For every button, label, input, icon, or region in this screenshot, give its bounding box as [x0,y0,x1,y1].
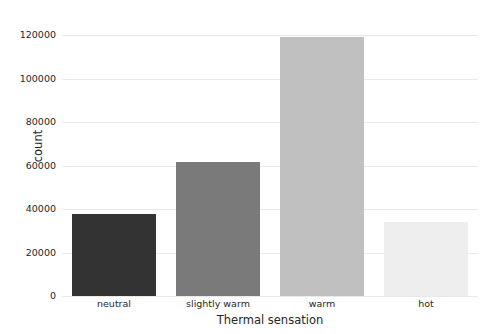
y-axis-tick-label: 120000 [2,30,56,40]
x-axis-tick-labels: neutralslightly warmwarmhot [62,298,478,314]
bar [384,222,468,296]
bar [176,162,260,296]
plot-area [62,22,478,296]
y-axis-tick-label: 40000 [2,204,56,214]
y-axis-tick-label: 0 [2,291,56,301]
x-axis-tick-label: slightly warm [186,298,250,310]
y-axis-tick-label: 20000 [2,248,56,258]
y-axis-tick-label: 80000 [2,117,56,127]
y-axis-tick-label: 100000 [2,74,56,84]
bar-series [62,22,478,296]
bar-chart-figure: 020000400006000080000100000120000 count … [0,0,501,334]
bar [72,214,156,296]
x-axis-tick-label: hot [418,298,434,310]
gridline [62,296,478,297]
x-axis-label: Thermal sensation [62,313,478,327]
x-axis-tick-label: neutral [97,298,131,310]
bar [280,37,364,296]
y-axis-tick-labels: 020000400006000080000100000120000 [0,22,56,296]
y-axis-label: count [31,116,45,176]
y-axis-tick-label: 60000 [2,161,56,171]
x-axis-tick-label: warm [309,298,336,310]
